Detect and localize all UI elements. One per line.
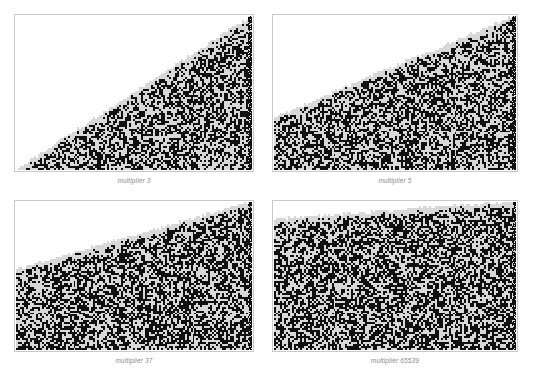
panel-multiplier-3 [14, 14, 254, 172]
panel-caption: multiplier 65539 [272, 357, 518, 364]
noise-plot-area [274, 16, 516, 170]
panel-caption: multiplier 5 [272, 177, 518, 184]
panel-caption: multiplier 37 [14, 357, 254, 364]
panel-frame [14, 200, 254, 352]
noise-bitmap [274, 202, 516, 350]
panel-multiplier-37 [14, 200, 254, 352]
noise-plot-area [16, 202, 252, 350]
noise-plot-area [274, 202, 516, 350]
noise-bitmap [274, 16, 516, 170]
panel-frame [272, 200, 518, 352]
noise-plot-area [16, 16, 252, 170]
panel-frame [272, 14, 518, 172]
panel-frame [14, 14, 254, 172]
noise-bitmap [16, 202, 252, 350]
lcg-multiplier-figure: multiplier 3multiplier 5multiplier 37mul… [0, 0, 535, 382]
noise-bitmap [16, 16, 252, 170]
panel-multiplier-65539 [272, 200, 518, 352]
panel-multiplier-5 [272, 14, 518, 172]
panel-caption: multiplier 3 [14, 177, 254, 184]
